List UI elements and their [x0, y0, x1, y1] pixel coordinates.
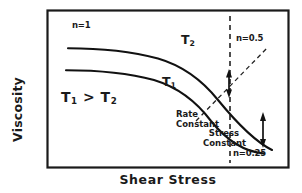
stress-constant-line-2: Constant: [203, 138, 246, 148]
x-axis-label: Shear Stress: [47, 172, 289, 187]
annotation-temperature-inequality: T1 > T2: [61, 90, 117, 105]
rate-constant-line-1: Rate: [176, 109, 198, 119]
curve-label-t1: T1: [162, 75, 176, 88]
curve-label-t1-subscript: 1: [171, 81, 176, 90]
curve-label-t2-subscript: 2: [190, 39, 195, 48]
ineq-sub-1: 1: [71, 96, 78, 106]
annotation-rate-constant: Rate Constant: [176, 110, 219, 129]
curve-label-t2: T2: [181, 33, 195, 46]
plot-canvas: [0, 0, 302, 193]
ineq-sub-2: 2: [111, 96, 118, 106]
annotation-stress-constant: Stress Constant: [203, 129, 245, 148]
annotation-n-equals-1: n=1: [72, 21, 91, 30]
stress-constant-line-1: Stress: [209, 128, 239, 138]
rate-constant-arrow: [226, 69, 232, 98]
annotation-n-equals-quarter: n=0.25: [233, 149, 266, 158]
y-axis-label: Viscosity: [10, 62, 25, 158]
viscosity-shear-stress-figure: Viscosity Shear Stress n=1 T2 T1 T1 > T2…: [0, 0, 302, 193]
annotation-n-equals-half: n=0.5: [236, 34, 263, 43]
